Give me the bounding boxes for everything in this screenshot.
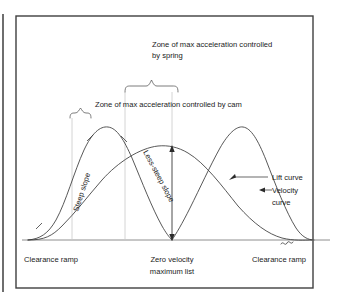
diagram-canvas: Zone of max acceleration controlled by s… — [0, 0, 340, 305]
zero-velocity-label-line2: maximum list — [150, 267, 195, 276]
lift-curve-label: Lift curve — [272, 173, 303, 182]
clearance-ramp-label-right: Clearance ramp — [252, 255, 306, 264]
spring-zone-label-line1: Zone of max acceleration controlled — [152, 40, 272, 49]
clearance-ramp-label-left: Clearance ramp — [24, 255, 78, 264]
spring-zone-label-line2: by spring — [152, 51, 183, 60]
cam-lift-velocity-figure: Zone of max acceleration controlled by s… — [0, 0, 340, 305]
zero-velocity-label-line1: Zero velocity — [150, 255, 193, 264]
velocity-curve-label-line1: Velocity — [272, 186, 298, 195]
cam-zone-label: Zone of max acceleration controlled by c… — [95, 100, 242, 109]
velocity-curve-label-line2: curve — [272, 198, 291, 207]
